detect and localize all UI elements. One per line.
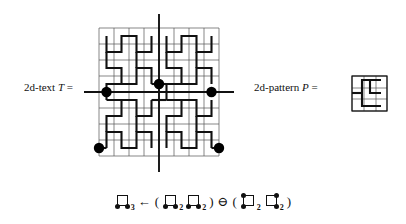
text-label-prefix: 2d-text xyxy=(24,81,55,93)
square-glyph-icon xyxy=(186,194,201,209)
square-glyph-icon xyxy=(163,194,178,209)
glyph-square-tr-br: 2 xyxy=(264,194,283,209)
pattern-label-prefix: 2d-pattern xyxy=(254,81,299,93)
glyph-square-bl-br-b: 2 xyxy=(186,194,205,209)
glyph-subscript: 2 xyxy=(257,204,261,212)
match-bottom-left xyxy=(94,143,104,153)
corner-dot-bl xyxy=(241,204,246,209)
pattern-label-symbol: P xyxy=(302,81,309,93)
text-label: 2d-text T = xyxy=(24,82,73,93)
pattern-label: 2d-pattern P = xyxy=(254,82,318,93)
square-glyph-icon xyxy=(115,194,130,209)
close-paren-1: ) xyxy=(207,195,215,208)
corner-dot-bl xyxy=(163,204,168,209)
text-label-symbol: T xyxy=(58,81,64,93)
corner-dot-tl xyxy=(241,193,246,198)
corner-dot-bl xyxy=(115,204,120,209)
glyph-subscript: 2 xyxy=(179,204,183,212)
open-paren-1: ( xyxy=(153,195,161,208)
corner-dot-tr xyxy=(274,193,279,198)
corner-dot-br xyxy=(196,204,201,209)
glyph-subscript: 2 xyxy=(280,204,284,212)
glyph-subscript: 3 xyxy=(131,204,135,212)
corner-dot-br xyxy=(173,204,178,209)
close-paren-2: ) xyxy=(285,195,293,208)
match-right xyxy=(206,87,216,97)
glyph-subscript: 2 xyxy=(202,204,206,212)
corner-dot-br xyxy=(125,204,130,209)
square-glyph-icon xyxy=(264,194,279,209)
match-center xyxy=(154,79,164,89)
square-glyph-icon xyxy=(241,194,256,209)
corner-dot-bl xyxy=(186,204,191,209)
assign-arrow: ← xyxy=(136,195,153,208)
glyph-square-bl-br-a: 2 xyxy=(163,194,182,209)
glyph-square-tl-bl: 2 xyxy=(241,194,260,209)
formula-expression: 3←(22)⊖(22) xyxy=(0,186,406,216)
glyph-square-bl-br: 3 xyxy=(115,194,134,209)
circled-minus: ⊖ xyxy=(216,195,231,208)
open-paren-2: ( xyxy=(230,195,238,208)
pattern-label-equals: = xyxy=(311,81,317,93)
match-bottom-right xyxy=(214,143,224,153)
corner-dot-br xyxy=(274,204,279,209)
text-label-equals: = xyxy=(67,81,73,93)
match-left xyxy=(101,87,111,97)
